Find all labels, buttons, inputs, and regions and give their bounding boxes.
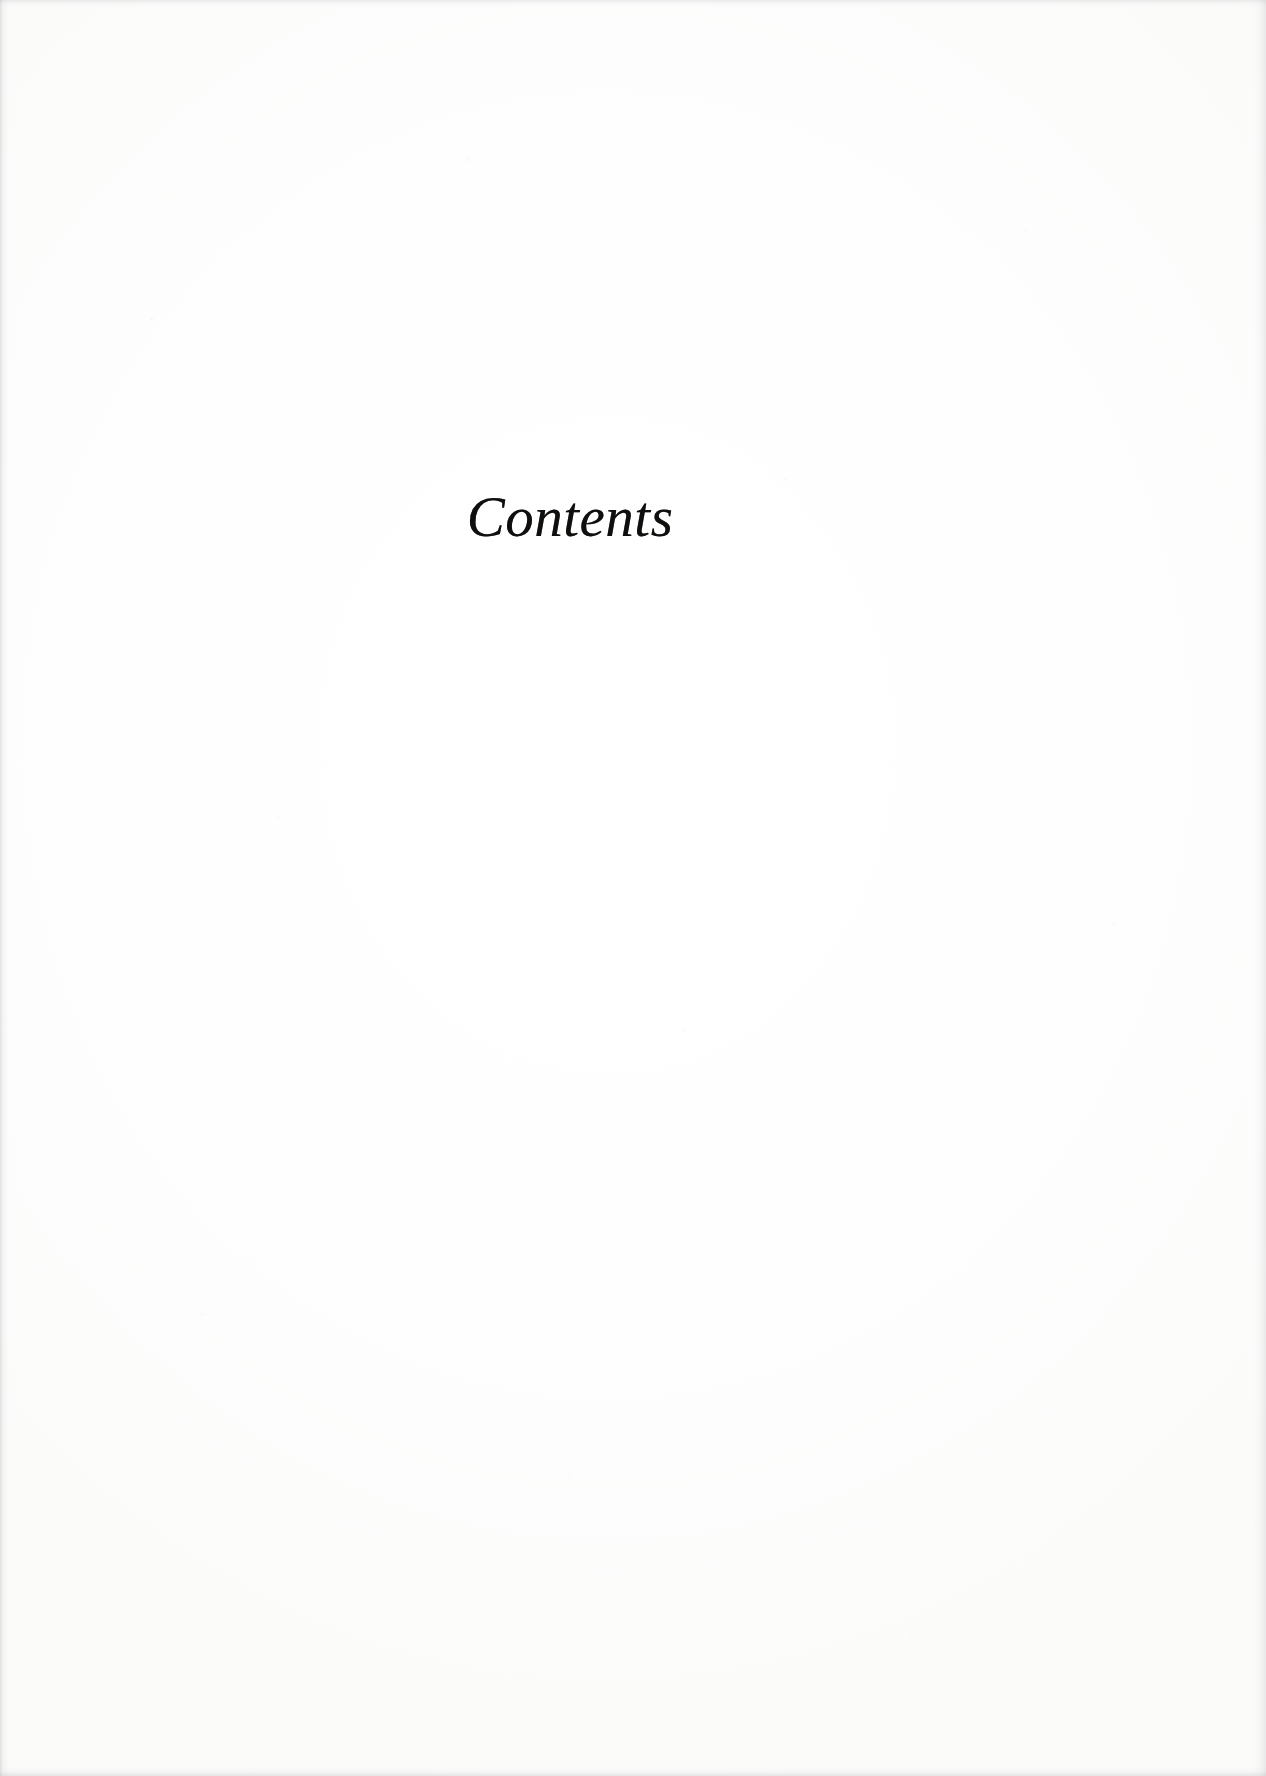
page-title: Contents bbox=[467, 488, 674, 545]
heading-block: Contents bbox=[0, 488, 1140, 545]
page-edge-shadow-left bbox=[0, 0, 9, 1776]
paper-grain-texture bbox=[0, 0, 1266, 1776]
page-edge-shadow-bottom bbox=[0, 1766, 1266, 1776]
scanned-page: Contents bbox=[0, 0, 1266, 1776]
page-edge-shadow-top bbox=[0, 0, 1266, 8]
page-edge-shadow-right bbox=[1252, 0, 1266, 1776]
